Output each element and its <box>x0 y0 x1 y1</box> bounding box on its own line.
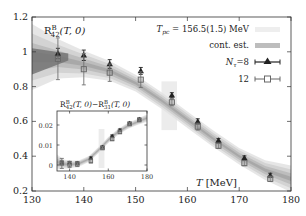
y-tick-label: 1.2 <box>13 11 28 22</box>
legend-label-ntau12: 12 <box>238 74 249 84</box>
inset-title: RB42(T, 0)−RB31(T, 0) <box>60 99 130 110</box>
square-marker <box>138 77 143 82</box>
y-tick-label: 1 <box>22 46 28 57</box>
legend-marker-ntau8 <box>255 58 280 65</box>
point-ntau12 <box>100 146 104 150</box>
point-ntau12 <box>242 161 247 166</box>
square-marker <box>110 137 114 141</box>
point-ntau12 <box>195 123 200 130</box>
x-tick-label: 140 <box>63 173 75 181</box>
x-tick-label: 160 <box>178 194 196 205</box>
square-marker <box>195 124 200 129</box>
x-tick-label: 160 <box>102 173 114 181</box>
point-ntau12 <box>118 130 122 134</box>
square-marker <box>169 100 174 105</box>
main-plot: 130140150160170180 0.20.40.60.811.2 RB42… <box>13 11 300 205</box>
x-axis-label: T[MeV] <box>196 177 237 188</box>
square-marker <box>60 162 64 166</box>
square-marker <box>107 70 112 75</box>
y-tick-label: 0.02 <box>39 122 53 130</box>
legend-label-ntau8: Nτ=8 <box>225 57 249 68</box>
inset-plot: 140160180 00.010.02 RB42(T, 0)−RB31(T, 0… <box>39 99 154 181</box>
square-marker <box>242 161 247 166</box>
y-tick-label: 0.6 <box>13 115 28 126</box>
legend-swatch-continuum <box>255 43 280 48</box>
y-tick-label: 0.01 <box>39 142 53 150</box>
square-marker <box>118 130 122 134</box>
point-ntau12 <box>68 161 72 167</box>
y-tick-label: 0.8 <box>13 81 28 92</box>
square-marker <box>268 176 273 181</box>
point-ntau12 <box>137 118 141 122</box>
point-ntau12 <box>169 99 174 106</box>
square-marker <box>81 67 86 72</box>
square-marker <box>55 56 60 61</box>
square-marker <box>68 163 72 167</box>
square-marker <box>137 118 141 122</box>
point-ntau12 <box>216 143 221 148</box>
square-icon <box>265 76 271 82</box>
x-tick-label: 140 <box>75 194 93 205</box>
x-tick-label: 150 <box>127 194 145 205</box>
point-ntau12 <box>75 162 79 167</box>
x-tick-label: 180 <box>141 173 153 181</box>
y-tick-label: 0 <box>49 162 53 170</box>
square-marker <box>76 162 80 166</box>
square-marker <box>216 143 221 148</box>
point-ntau12 <box>110 137 114 141</box>
y-tick-label: 0.2 <box>13 185 28 196</box>
x-tick-label: 180 <box>282 194 300 205</box>
legend-marker-ntau12 <box>255 76 280 82</box>
y-tick-label: 0.4 <box>13 150 28 161</box>
triangle-icon <box>264 58 272 65</box>
square-marker <box>89 159 93 163</box>
legend-label-tpc: Tpc = 156.5(1.5) MeV <box>157 24 250 36</box>
point-ntau12 <box>89 159 93 163</box>
chart-canvas: 130140150160170180 0.20.40.60.811.2 RB42… <box>0 0 306 216</box>
x-tick-label: 170 <box>230 194 248 205</box>
point-ntau12 <box>268 176 273 181</box>
legend-label-cont: cont. est. <box>209 40 249 50</box>
main-title: RB42(T, 0) <box>44 24 85 39</box>
square-marker <box>128 122 132 126</box>
square-marker <box>101 146 105 150</box>
point-ntau12 <box>128 122 132 126</box>
legend-swatch-tpc <box>255 27 280 32</box>
legend: Tpc = 156.5(1.5) MeV cont. est. Nτ=8 12 <box>157 24 280 84</box>
